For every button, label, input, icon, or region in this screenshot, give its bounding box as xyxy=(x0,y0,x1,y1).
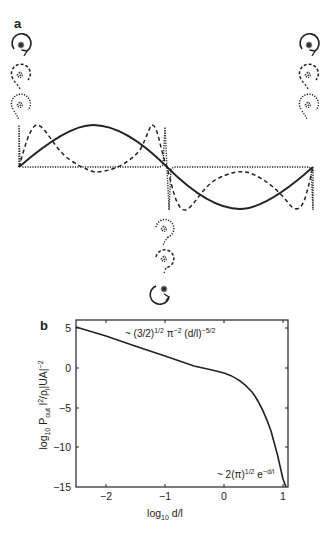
y-tick-label: −10 xyxy=(53,441,71,453)
dashed-rotor-icon xyxy=(11,64,30,89)
solid-rotor-icon xyxy=(150,286,169,304)
y-tick-label: 0 xyxy=(65,362,71,374)
y-tick-label: 5 xyxy=(65,322,71,334)
panel-b-label: b xyxy=(40,318,48,333)
dotted-mode-curve xyxy=(19,125,313,210)
x-tick-label: 1 xyxy=(280,490,286,502)
y-ticks xyxy=(76,328,288,447)
asymptote-annotation-power-law: ~ (3/2)1/2 π−2 (d/l)−5/2 xyxy=(125,327,216,339)
y-axis-label: log10 Pout l2/ρl|UA|−2 xyxy=(37,360,51,449)
dashed-rotor-icon xyxy=(156,250,174,273)
figure: a xyxy=(0,0,335,535)
x-tick-label: −2 xyxy=(100,490,112,502)
dotted-rotor-icon xyxy=(299,94,318,119)
y-tick-label: −15 xyxy=(53,481,71,493)
right-rotor-column xyxy=(299,34,319,119)
x-tick-label: 0 xyxy=(221,490,227,502)
dotted-rotor-icon xyxy=(156,220,174,245)
power-curve xyxy=(76,327,286,487)
y-tick-label: −5 xyxy=(59,402,71,414)
dotted-rotor-icon xyxy=(11,94,30,120)
wave-plot xyxy=(19,125,313,210)
plot-frame xyxy=(76,320,288,487)
dashed-rotor-icon xyxy=(299,64,318,89)
center-rotor-column xyxy=(150,220,174,305)
x-axis-label: log10 d/l xyxy=(147,507,183,521)
panel-a-label: a xyxy=(14,16,22,31)
solid-rotor-icon xyxy=(12,34,31,56)
x-tick-label: −1 xyxy=(159,490,171,502)
left-rotor-column xyxy=(11,34,31,120)
solid-rotor-icon xyxy=(300,34,319,56)
asymptote-annotation-exponential: ~ 2(π)1/2 e−d/l xyxy=(217,468,275,480)
